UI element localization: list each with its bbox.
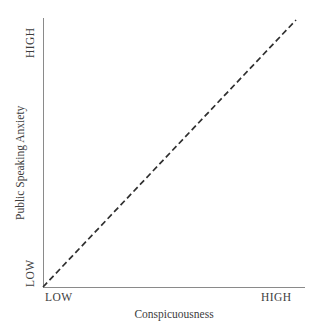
x-axis-tick-low: LOW: [45, 291, 72, 303]
chart-figure: HIGH LOW LOW HIGH Public Speaking Anxiet…: [0, 0, 314, 329]
x-axis-title: Conspicuousness: [43, 308, 305, 320]
y-axis-tick-low: LOW: [24, 260, 36, 287]
y-axis-tick-high: HIGH: [24, 28, 36, 58]
y-axis-title: Public Speaking Anxiety: [14, 106, 26, 220]
trend-line-dashed: [43, 20, 296, 287]
plot-area: [0, 0, 314, 329]
x-axis-tick-high: HIGH: [261, 291, 291, 303]
